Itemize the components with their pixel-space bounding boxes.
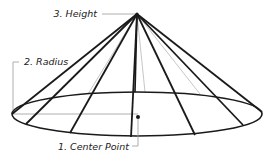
apex-point	[135, 12, 138, 15]
center-point-dot	[136, 115, 140, 119]
center-point-label: 1. Center Point	[58, 141, 130, 152]
radius-leader	[13, 62, 138, 114]
center-point-leader	[132, 119, 138, 146]
cone-diagram: 3. Height 2. Radius 1. Center Point	[0, 0, 268, 156]
radius-label: 2. Radius	[24, 56, 68, 67]
height-label: 3. Height	[54, 8, 99, 19]
hidden-edges	[88, 14, 200, 94]
